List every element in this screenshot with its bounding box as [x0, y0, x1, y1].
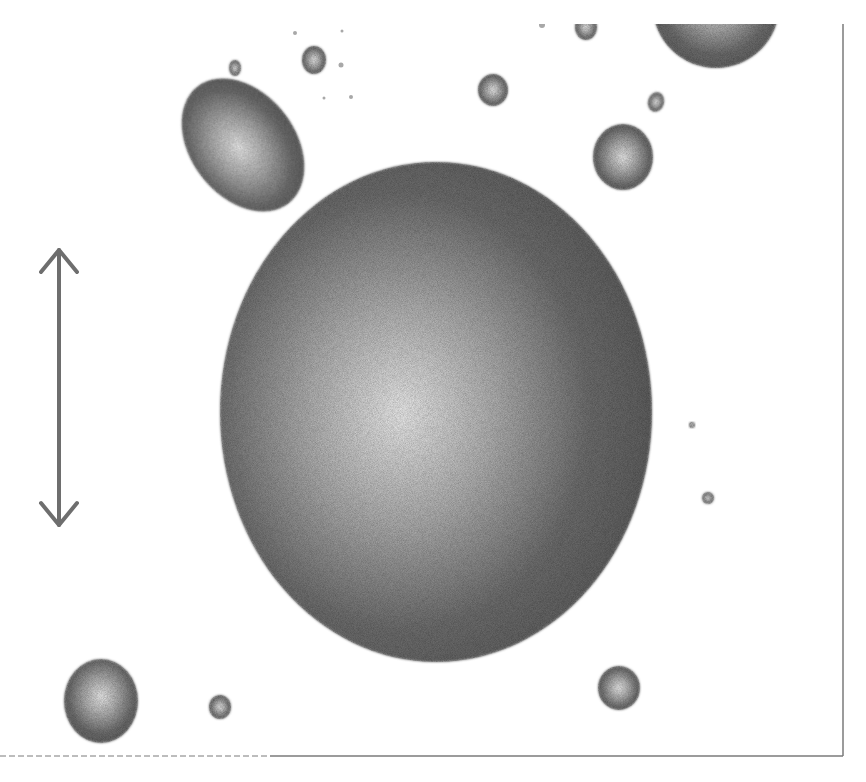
- right-tiny-ellipse-particle: [646, 90, 667, 113]
- particle-diagram: [0, 0, 866, 782]
- bottom-small-particle: [209, 695, 231, 719]
- top-right-half-particle: [653, 0, 779, 68]
- top-small-particle: [302, 46, 326, 74]
- speck: [349, 95, 353, 99]
- speck-right-2-particle: [702, 492, 714, 504]
- left-tiny-particle: [229, 60, 241, 76]
- double-arrow-icon: [41, 250, 77, 525]
- top-mid-particle: [478, 74, 508, 106]
- bottom-right-particle: [598, 666, 640, 710]
- particles-layer: [64, 0, 779, 743]
- top-cut-particle: [575, 14, 597, 40]
- bottom-left-particle: [64, 659, 138, 743]
- speck-right-1-particle: [689, 422, 695, 428]
- speck: [341, 30, 344, 33]
- speck: [293, 31, 297, 35]
- speck: [539, 22, 545, 28]
- large-sphere-particle: [220, 162, 652, 662]
- right-medium-particle: [593, 124, 653, 190]
- egg-particle: [156, 55, 329, 236]
- speck: [339, 63, 344, 68]
- speck: [323, 97, 326, 100]
